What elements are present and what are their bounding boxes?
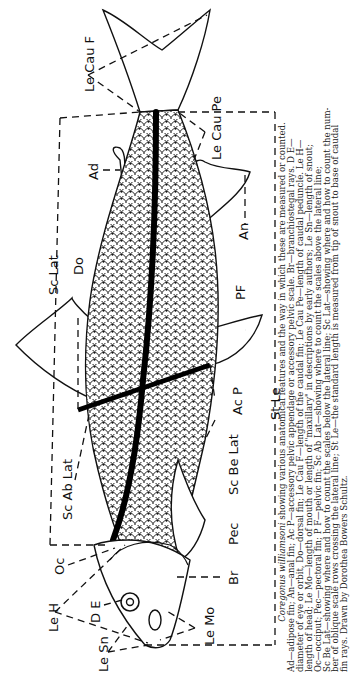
label-sc-be-lat: Sc Be Lat: [226, 434, 241, 495]
label-le-sn: Le Sn: [96, 636, 111, 672]
label-sc-ab-lat: Sc Ab Lat: [60, 459, 75, 520]
caption-line: fin rays. Drawn by Dorothea Bowers Schul…: [340, 72, 349, 672]
label-do: Do: [71, 257, 86, 275]
label-le-cau-f: Le Cau F: [82, 36, 97, 92]
label-pf: PF: [233, 285, 248, 300]
label-ad: Ad: [86, 163, 101, 180]
figure-caption: Coregonus williamsoni showing various an…: [278, 72, 349, 672]
label-sc-lat: Sc Lat: [46, 255, 61, 295]
label-an: An: [236, 223, 251, 240]
fish-head: [94, 540, 190, 648]
label-de: D E: [88, 601, 103, 623]
label-pec: Pec: [226, 522, 241, 545]
label-le-mo: Le Mo: [202, 607, 217, 645]
mouth: [149, 610, 161, 630]
label-ac-p: Ac P: [230, 387, 245, 415]
label-br: Br: [226, 570, 241, 585]
label-le-h: Le H: [46, 603, 61, 632]
label-le-cau-pe: Le Cau Pe: [209, 96, 224, 160]
label-oc: Oc: [52, 558, 67, 575]
